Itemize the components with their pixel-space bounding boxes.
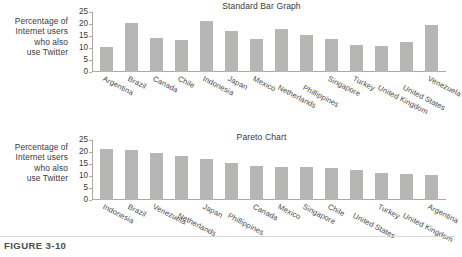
y-tick-mark bbox=[89, 164, 92, 165]
bar-slot bbox=[169, 12, 194, 72]
x-label-slot: Venezuela bbox=[419, 73, 444, 119]
y-axis-caption-line: Percentage of bbox=[0, 16, 68, 26]
y-tick-mark bbox=[89, 36, 92, 37]
bar-slot bbox=[269, 12, 294, 72]
x-label-slot: Argentina bbox=[419, 201, 444, 247]
x-label-slot: Netherlands bbox=[269, 73, 294, 119]
y-tick-label: 25 bbox=[79, 136, 88, 144]
x-label-slot: Phillippines bbox=[219, 201, 244, 247]
bar-slot bbox=[144, 140, 169, 200]
y-tick-label: 25 bbox=[79, 8, 88, 16]
x-label-slot: Turkey bbox=[344, 73, 369, 119]
x-label-slot: United States bbox=[394, 73, 419, 119]
y-tick-mark bbox=[89, 60, 92, 61]
y-tick-label: 20 bbox=[79, 20, 88, 28]
figure-caption: FIGURE 3-10 bbox=[4, 240, 66, 251]
bar-slot bbox=[419, 12, 444, 72]
x-label-slot: Brazil bbox=[119, 201, 144, 247]
y-tick-mark bbox=[89, 12, 92, 13]
bar-slot bbox=[194, 12, 219, 72]
bar bbox=[125, 150, 138, 200]
y-tick-label: 10 bbox=[79, 44, 88, 52]
y-tick-label: 0 bbox=[83, 68, 88, 76]
x-axis-category-labels: IndonesiaBrazilVenezuelaNetherlandsJapan… bbox=[92, 201, 444, 247]
bar bbox=[225, 31, 238, 72]
x-label-slot: Chile bbox=[169, 73, 194, 119]
bar bbox=[350, 45, 363, 72]
bar-series bbox=[92, 140, 444, 200]
bar-slot bbox=[394, 12, 419, 72]
x-category-label: Argentina bbox=[426, 203, 459, 225]
bar-slot bbox=[344, 12, 369, 72]
chart-standard-bar-graph: Standard Bar Graph Percentage of Interne… bbox=[0, 0, 455, 120]
bar bbox=[425, 175, 438, 200]
bar-slot bbox=[219, 12, 244, 72]
x-label-slot: Argentina bbox=[94, 73, 119, 119]
bar-slot bbox=[319, 140, 344, 200]
x-label-slot: Indonesia bbox=[194, 73, 219, 119]
x-category-label: Chile bbox=[176, 75, 195, 90]
y-tick-mark bbox=[89, 152, 92, 153]
bar-slot bbox=[319, 12, 344, 72]
y-tick-mark bbox=[89, 176, 92, 177]
bar-slot bbox=[119, 140, 144, 200]
y-tick-label: 20 bbox=[79, 148, 88, 156]
x-label-slot: Mexico bbox=[269, 201, 294, 247]
x-category-label: Venezuela bbox=[426, 75, 462, 98]
x-label-slot: Brazil bbox=[119, 73, 144, 119]
x-label-slot: Turkey bbox=[369, 201, 394, 247]
y-axis-caption-line: who also bbox=[0, 163, 68, 173]
x-label-slot: Japan bbox=[194, 201, 219, 247]
bar-slot bbox=[419, 140, 444, 200]
bar bbox=[325, 39, 338, 72]
y-tick-label: 15 bbox=[79, 32, 88, 40]
bar-slot bbox=[394, 140, 419, 200]
bar bbox=[175, 156, 188, 200]
y-axis-caption-line: use Twitter bbox=[0, 173, 68, 183]
bar bbox=[150, 38, 163, 72]
chart-title: Standard Bar Graph bbox=[68, 1, 455, 11]
bar bbox=[300, 35, 313, 72]
y-axis-caption: Percentage of Internet users who also us… bbox=[0, 142, 68, 184]
x-label-slot: Venezuela bbox=[144, 201, 169, 247]
bar-slot bbox=[119, 12, 144, 72]
y-axis-caption-line: who also bbox=[0, 37, 68, 47]
bar bbox=[375, 46, 388, 72]
y-tick-label: 5 bbox=[83, 184, 88, 192]
bar bbox=[425, 25, 438, 72]
y-axis-caption-line: Percentage of bbox=[0, 142, 68, 152]
bar bbox=[400, 174, 413, 200]
x-label-slot: United States bbox=[344, 201, 369, 247]
x-label-slot: Indonesia bbox=[94, 201, 119, 247]
bar-slot bbox=[344, 140, 369, 200]
bar bbox=[300, 167, 313, 200]
bar-slot bbox=[169, 140, 194, 200]
bar-slot bbox=[94, 140, 119, 200]
x-label-slot: Japan bbox=[219, 73, 244, 119]
bar bbox=[200, 21, 213, 72]
x-axis-category-labels: ArgentinaBrazilCanadaChileIndonesiaJapan… bbox=[92, 73, 444, 119]
y-tick-label: 15 bbox=[79, 160, 88, 168]
bar bbox=[250, 166, 263, 200]
x-label-slot: United Kingdom bbox=[369, 73, 394, 119]
bar-slot bbox=[294, 140, 319, 200]
y-axis-tick-labels: 0510152025 bbox=[66, 140, 88, 200]
x-label-slot: Chile bbox=[319, 201, 344, 247]
bar-slot bbox=[369, 140, 394, 200]
x-label-slot: Netherlands bbox=[169, 201, 194, 247]
bar-slot bbox=[219, 140, 244, 200]
y-axis-caption: Percentage of Internet users who also us… bbox=[0, 16, 68, 58]
bar bbox=[225, 163, 238, 200]
bar-slot bbox=[244, 12, 269, 72]
bar-slot bbox=[369, 12, 394, 72]
x-label-slot: Canada bbox=[244, 201, 269, 247]
y-axis-caption-line: Internet users bbox=[0, 152, 68, 162]
y-axis-caption-line: Internet users bbox=[0, 26, 68, 36]
bar bbox=[375, 173, 388, 200]
y-tick-mark bbox=[89, 48, 92, 49]
bar bbox=[325, 168, 338, 200]
bar bbox=[400, 42, 413, 72]
bar-series bbox=[92, 12, 444, 72]
y-tick-mark bbox=[89, 24, 92, 25]
